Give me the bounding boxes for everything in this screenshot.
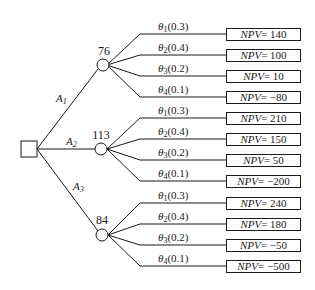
alternative-label-a2: A2	[66, 135, 77, 147]
probability-label: θ2(0.4)	[158, 210, 188, 222]
npv-outcome-box: NPV= 50	[226, 154, 301, 167]
npv-outcome-box: NPV= −80	[226, 91, 301, 104]
probability-label: θ3(0.2)	[158, 146, 188, 158]
chance-node-1	[97, 59, 109, 71]
probability-label: θ3(0.2)	[158, 62, 188, 74]
expected-value-2: 113	[92, 129, 110, 141]
expected-value-1: 76	[98, 45, 110, 57]
probability-label: θ2(0.4)	[158, 41, 188, 53]
alternative-label-a3: A3	[73, 180, 84, 192]
probability-label: θ1(0.3)	[158, 189, 188, 201]
npv-outcome-box: NPV= −200	[226, 175, 301, 188]
probability-label: θ1(0.3)	[158, 20, 188, 32]
probability-label: θ4(0.1)	[158, 167, 188, 179]
npv-outcome-box: NPV= −50	[226, 239, 301, 252]
npv-outcome-box: NPV= 150	[226, 133, 301, 146]
npv-outcome-box: NPV= 210	[226, 112, 301, 125]
decision-node-square	[21, 141, 37, 157]
expected-value-3: 84	[96, 214, 108, 226]
probability-label: θ2(0.4)	[158, 125, 188, 137]
npv-outcome-box: NPV= 180	[226, 218, 301, 231]
chance-node-2	[95, 143, 107, 155]
npv-outcome-box: NPV= 140	[226, 28, 301, 41]
alternative-label-a1: A1	[56, 92, 67, 104]
chance-node-3	[96, 229, 108, 241]
npv-outcome-box: NPV= 100	[226, 49, 301, 62]
probability-label: θ4(0.1)	[158, 252, 188, 264]
probability-label: θ1(0.3)	[158, 104, 188, 116]
probability-label: θ4(0.1)	[158, 83, 188, 95]
npv-outcome-box: NPV= 10	[226, 70, 301, 83]
probability-label: θ3(0.2)	[158, 231, 188, 243]
npv-outcome-box: NPV= −500	[226, 260, 301, 273]
npv-outcome-box: NPV= 240	[226, 197, 301, 210]
